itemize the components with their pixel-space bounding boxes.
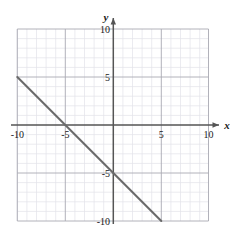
y-axis-label: y [102, 11, 109, 23]
y-tick-label-pos5: 5 [105, 72, 110, 83]
y-axis-arrowhead [111, 18, 116, 25]
x-tick-label-neg5: -5 [61, 129, 69, 140]
coordinate-plane-svg: -10 -5 5 10 10 5 -5 -10 x y [0, 0, 247, 239]
y-tick-label-pos10: 10 [100, 24, 110, 35]
x-tick-label-pos5: 5 [159, 129, 164, 140]
y-tick-label-neg10: -10 [97, 216, 110, 227]
y-tick-label-neg5: -5 [102, 168, 110, 179]
x-axis-label: x [223, 119, 230, 131]
x-axis-arrowhead [213, 122, 220, 127]
axes [11, 18, 219, 224]
x-tick-label-pos10: 10 [204, 129, 214, 140]
x-tick-label-neg10: -10 [11, 129, 24, 140]
coordinate-graph-figure: -10 -5 5 10 10 5 -5 -10 x y [0, 0, 247, 239]
plotted-line [17, 77, 161, 221]
